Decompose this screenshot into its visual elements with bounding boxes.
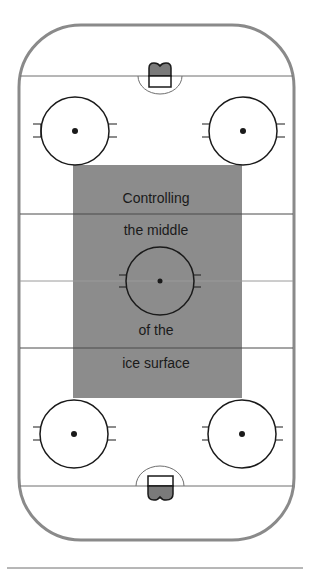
- caption-line-4: ice surface: [0, 355, 312, 371]
- caption-line-3: of the: [0, 322, 312, 338]
- faceoff-dot: [240, 128, 246, 134]
- caption-line-2: the middle: [0, 222, 312, 238]
- faceoff-circle-top-right: [202, 97, 285, 165]
- faceoff-circle-bottom-left: [33, 400, 116, 468]
- hockey-rink-diagram: [0, 0, 312, 573]
- faceoff-dot: [71, 431, 77, 437]
- center-dot: [158, 279, 163, 284]
- faceoff-dot: [72, 128, 78, 134]
- top-goal-net-icon: [149, 63, 171, 87]
- bottom-goal-net-icon: [148, 476, 173, 500]
- caption-line-1: Controlling: [0, 190, 312, 206]
- faceoff-dot: [239, 431, 245, 437]
- faceoff-circle-top-left: [33, 97, 117, 165]
- faceoff-circle-bottom-right: [202, 400, 283, 468]
